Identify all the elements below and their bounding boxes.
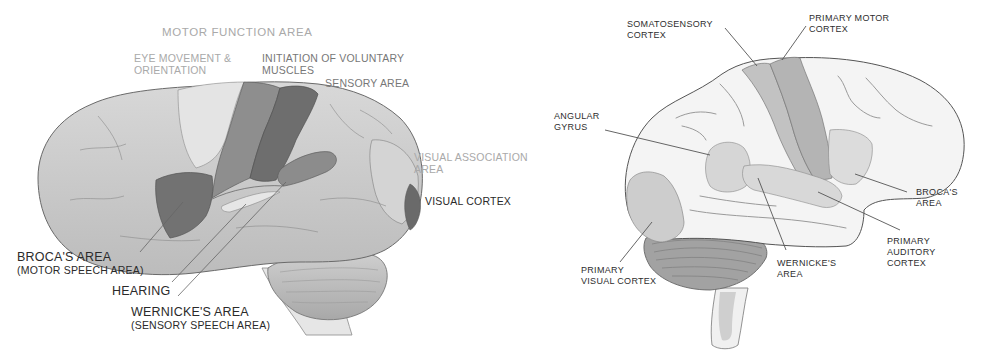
label-wernickes-area-right: WERNICKE'S AREA <box>777 258 836 280</box>
label-line: BROCA'S <box>916 187 958 198</box>
label-line: PRIMARY MOTOR <box>809 13 889 24</box>
label-line: WERNICKE'S <box>777 258 836 269</box>
label-primary-visual-cortex: PRIMARY VISUAL CORTEX <box>581 265 656 287</box>
label-line: WERNICKE'S AREA <box>131 305 270 319</box>
label-line: VISUAL CORTEX <box>581 276 656 287</box>
label-line: PRIMARY <box>581 265 656 276</box>
label-line: ANGULAR <box>554 111 600 122</box>
label-primary-auditory-cortex: PRIMARY AUDITORY CORTEX <box>887 236 936 269</box>
label-angular-gyrus: ANGULAR GYRUS <box>554 111 600 133</box>
label-line: AREA <box>414 163 528 175</box>
label-eye-movement-orientation: EYE MOVEMENT & ORIENTATION <box>134 52 231 76</box>
label-line: CORTEX <box>627 30 713 41</box>
label-line: MUSCLES <box>262 64 404 76</box>
label-line: SOMATOSENSORY <box>627 19 713 30</box>
left-brain <box>38 82 422 335</box>
label-line: (SENSORY SPEECH AREA) <box>131 319 270 332</box>
label-sensory-area: SENSORY AREA <box>325 77 409 89</box>
label-brocas-area-right: BROCA'S AREA <box>916 187 958 209</box>
label-initiation-voluntary-muscles: INITIATION OF VOLUNTARY MUSCLES <box>262 52 404 76</box>
label-motor-function-area: MOTOR FUNCTION AREA <box>162 26 312 38</box>
label-line: AREA <box>916 198 958 209</box>
label-line: BROCA'S AREA <box>17 250 144 264</box>
label-wernickes-area: WERNICKE'S AREA (SENSORY SPEECH AREA) <box>131 305 270 332</box>
label-line: (MOTOR SPEECH AREA) <box>17 264 144 277</box>
label-line: PRIMARY <box>887 236 936 247</box>
label-line: CORTEX <box>887 258 936 269</box>
label-somatosensory-cortex: SOMATOSENSORY CORTEX <box>627 19 713 41</box>
label-visual-association-area: VISUAL ASSOCIATION AREA <box>414 151 528 175</box>
label-hearing: HEARING <box>112 284 170 298</box>
label-primary-motor-cortex: PRIMARY MOTOR CORTEX <box>809 13 889 35</box>
label-line: CORTEX <box>809 24 889 35</box>
label-line: EYE MOVEMENT & <box>134 52 231 64</box>
label-line: GYRUS <box>554 122 600 133</box>
label-brocas-area: BROCA'S AREA (MOTOR SPEECH AREA) <box>17 250 144 277</box>
label-line: AUDITORY <box>887 247 936 258</box>
brain-diagrams: MOTOR FUNCTION AREA EYE MOVEMENT & ORIEN… <box>0 0 983 363</box>
label-line: AREA <box>777 269 836 280</box>
label-line: INITIATION OF VOLUNTARY <box>262 52 404 64</box>
label-line: ORIENTATION <box>134 64 231 76</box>
label-visual-cortex: VISUAL CORTEX <box>425 195 511 207</box>
label-line: VISUAL ASSOCIATION <box>414 151 528 163</box>
right-brain <box>605 26 964 349</box>
